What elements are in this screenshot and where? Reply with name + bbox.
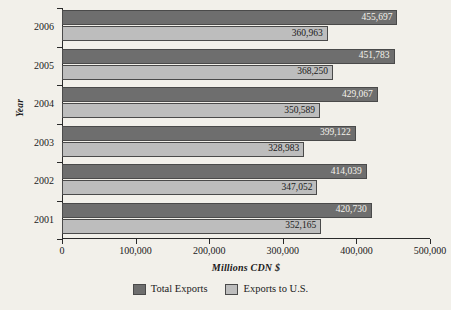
bar-group: 455,697360,963 (0, 8, 441, 47)
x-axis-tick-mark (136, 239, 137, 244)
bar-group: 414,039347,052 (0, 162, 441, 201)
x-axis-tick-label: 100,000 (101, 246, 171, 256)
bar-exports-to-us: 368,250 (62, 65, 333, 80)
bar-group: 429,067350,589 (0, 85, 441, 124)
legend-label: Total Exports (151, 284, 208, 295)
x-axis-tick-label: 200,000 (174, 246, 244, 256)
bar-total-exports: 455,697 (62, 10, 397, 25)
bar-value-label: 360,963 (292, 29, 327, 39)
chart-legend: Total ExportsExports to U.S. (0, 284, 441, 295)
x-axis-tick-label: 0 (27, 246, 97, 256)
bar-group: 420,730352,165 (0, 201, 441, 240)
bar-value-label: 429,067 (342, 90, 377, 100)
bar-value-label: 352,165 (285, 221, 320, 231)
bar-total-exports: 399,122 (62, 126, 356, 141)
bar-total-exports: 414,039 (62, 164, 367, 179)
bar-value-label: 399,122 (320, 128, 355, 138)
bar-exports-to-us: 350,589 (62, 103, 320, 118)
bar-value-label: 347,052 (282, 183, 317, 193)
bar-value-label: 328,983 (268, 144, 303, 154)
x-axis-tick-mark (209, 239, 210, 244)
bar-exports-to-us: 347,052 (62, 180, 317, 195)
bar-total-exports: 451,783 (62, 49, 395, 64)
bar-total-exports: 429,067 (62, 87, 378, 102)
legend-swatch-icon (133, 284, 146, 295)
legend-item: Exports to U.S. (225, 284, 308, 295)
bar-group: 399,122328,983 (0, 124, 441, 163)
bar-value-label: 350,589 (284, 106, 319, 116)
x-axis-tick-mark (356, 239, 357, 244)
legend-swatch-icon (225, 284, 238, 295)
bar-value-label: 455,697 (362, 13, 397, 23)
bar-value-label: 368,250 (297, 67, 332, 77)
bar-value-label: 420,730 (336, 205, 371, 215)
bar-exports-to-us: 360,963 (62, 26, 328, 41)
y-axis-tick-mark (57, 239, 62, 240)
bar-exports-to-us: 352,165 (62, 219, 321, 234)
x-axis-title: Millions CDN $ (62, 262, 430, 273)
legend-item: Total Exports (133, 284, 208, 295)
x-axis-tick-label: 500,000 (395, 246, 451, 256)
bar-value-label: 451,783 (359, 51, 394, 61)
bar-group: 451,783368,250 (0, 47, 441, 86)
bar-value-label: 414,039 (331, 167, 366, 177)
legend-label: Exports to U.S. (243, 284, 308, 295)
bar-total-exports: 420,730 (62, 203, 372, 218)
x-axis-tick-mark (430, 239, 431, 244)
x-axis-tick-mark (283, 239, 284, 244)
x-axis-tick-label: 300,000 (248, 246, 318, 256)
x-axis-tick-mark (62, 239, 63, 244)
bar-exports-to-us: 328,983 (62, 142, 304, 157)
x-axis-tick-label: 400,000 (321, 246, 391, 256)
